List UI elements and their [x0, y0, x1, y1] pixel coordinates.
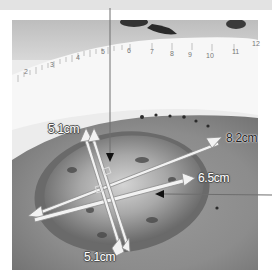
- measurement-label-5-1cm-bottom: 5.1cm: [84, 251, 115, 263]
- measurement-label-6-5cm: 6.5cm: [198, 172, 229, 184]
- ruler-number: 9: [188, 51, 192, 58]
- ruler-number: 11: [232, 48, 239, 55]
- ruler-number: 8: [170, 50, 174, 57]
- ruler-number: 4: [76, 54, 80, 61]
- wound-photo: [12, 20, 258, 270]
- ruler-number: 5: [101, 48, 105, 55]
- ruler-number: 12: [252, 40, 260, 47]
- ruler-number: 2: [24, 68, 28, 75]
- ruler-number: 7: [150, 48, 154, 55]
- measurement-label-8-2cm: 8.2cm: [226, 132, 257, 144]
- top-band: [0, 0, 272, 10]
- ruler-number: 6: [127, 47, 131, 54]
- ruler-number: 3: [50, 61, 54, 68]
- ruler-number: 10: [206, 52, 214, 59]
- measurement-label-5-1cm-top: 5.1cm: [48, 123, 79, 135]
